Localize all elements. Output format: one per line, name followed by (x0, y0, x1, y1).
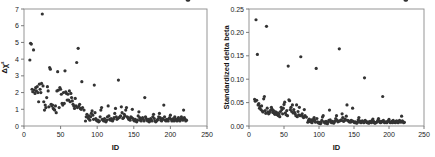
data-point (322, 114, 325, 117)
x-tick-label: 150 (348, 131, 360, 138)
data-point (345, 103, 348, 106)
y-tick-label: 6 (15, 22, 19, 29)
data-point (363, 76, 366, 79)
data-point (80, 80, 83, 83)
data-point (313, 116, 316, 119)
y-axis-ticks: 0.000.050.100.150.200.25 (230, 6, 249, 130)
data-point (75, 61, 78, 64)
data-point (265, 25, 268, 28)
chart-left-plot-area: 050100150200250 01234567 ID Δχ² (0, 0, 213, 152)
data-point (292, 108, 295, 111)
data-point (291, 103, 294, 106)
y-tick-label: 0.05 (230, 99, 244, 106)
data-point (283, 101, 286, 104)
data-point (143, 96, 146, 99)
data-point (182, 109, 185, 112)
x-tick-label: 150 (128, 131, 140, 138)
data-point (296, 110, 299, 113)
y-tick-label: 1 (15, 106, 19, 113)
data-point (82, 109, 85, 112)
x-tick-label: 250 (418, 131, 430, 138)
data-point (99, 115, 102, 118)
data-point (47, 89, 50, 92)
data-point (257, 102, 260, 105)
plot-frame (249, 9, 424, 126)
data-point (71, 99, 74, 102)
data-point (263, 95, 266, 98)
y-axis-title: Standardized delta beta (222, 25, 231, 110)
x-axis-ticks: 050100150200250 (22, 126, 213, 138)
data-point (46, 85, 49, 88)
data-point (66, 93, 69, 96)
data-point (328, 108, 331, 111)
data-point (28, 58, 31, 61)
data-point (32, 48, 35, 51)
data-point (117, 78, 120, 81)
x-tick-label: 50 (57, 131, 65, 138)
y-tick-label: 0.00 (230, 123, 244, 130)
data-point (49, 68, 52, 71)
data-point (255, 99, 258, 102)
data-point (98, 119, 101, 122)
data-point (93, 111, 96, 114)
data-point (185, 119, 188, 122)
data-point (345, 115, 348, 118)
data-point (78, 103, 81, 106)
chart-left-svg: 050100150200250 01234567 ID Δχ² (0, 0, 217, 157)
y-axis-title: Δχ² (0, 61, 9, 74)
data-point (282, 107, 285, 110)
x-axis-ticks: 050100150200250 (247, 126, 430, 138)
data-point (351, 107, 354, 110)
data-point (41, 12, 44, 15)
x-tick-label: 100 (91, 131, 103, 138)
data-point (266, 107, 269, 110)
data-point (381, 95, 384, 98)
data-point (288, 99, 291, 102)
data-point (70, 96, 73, 99)
data-point (107, 114, 110, 117)
data-point (90, 109, 93, 112)
data-point (113, 112, 116, 115)
y-tick-label: 0.15 (230, 52, 244, 59)
data-point (47, 105, 50, 108)
data-point (51, 104, 54, 107)
data-point (120, 105, 123, 108)
x-axis-title: ID (112, 143, 120, 152)
data-point (281, 112, 284, 115)
x-tick-label: 0 (22, 131, 26, 138)
y-tick-label: 5 (15, 39, 19, 46)
y-tick-label: 4 (15, 56, 19, 63)
y-tick-label: 0 (15, 123, 19, 130)
data-point (341, 112, 344, 115)
data-point-group (253, 0, 408, 125)
data-point (169, 114, 172, 117)
data-point (315, 67, 318, 70)
data-point (58, 106, 61, 109)
data-point (254, 18, 257, 21)
data-point (42, 100, 45, 103)
data-point (315, 117, 318, 120)
data-point (299, 55, 302, 58)
x-axis-title: ID (333, 143, 341, 152)
y-tick-label: 0.20 (230, 29, 244, 36)
data-point (37, 100, 40, 103)
data-point (69, 92, 72, 95)
data-point (54, 104, 57, 107)
data-point (285, 109, 288, 112)
chart-right-svg: 050100150200250 0.000.050.100.150.200.25… (217, 0, 434, 157)
data-point (91, 114, 94, 117)
data-point (88, 119, 91, 122)
data-point (107, 104, 110, 107)
data-point (77, 47, 80, 50)
data-point (36, 85, 39, 88)
data-point (142, 119, 145, 122)
panel-left-delta-chi-squared: 050100150200250 01234567 ID Δχ² (0, 0, 217, 157)
data-point (287, 65, 290, 68)
data-point (403, 121, 406, 124)
data-point (59, 88, 62, 91)
data-point (30, 43, 33, 46)
data-point (260, 104, 263, 107)
data-point (56, 70, 59, 73)
y-tick-label: 0.25 (230, 6, 244, 13)
x-tick-label: 250 (201, 131, 213, 138)
